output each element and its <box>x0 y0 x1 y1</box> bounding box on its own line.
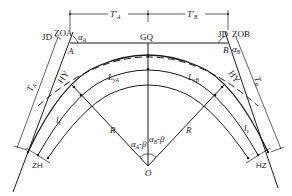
label-t-prime-b: T′B <box>187 9 198 20</box>
label-t-b: TB <box>251 75 265 87</box>
label-l-s-right: ls <box>244 123 249 134</box>
angle-arc-left <box>140 154 148 157</box>
left-tangent-line <box>13 32 73 192</box>
angle-arc-right <box>148 154 156 157</box>
top-dimension-line <box>69 10 229 30</box>
label-alpha-a-minus-beta: αA-β <box>131 139 147 150</box>
label-l-yb: LyB <box>187 72 199 83</box>
label-r-left: R <box>109 125 116 135</box>
label-gq: GQ <box>140 32 153 42</box>
label-zob: ZOB <box>232 29 250 39</box>
left-ta-dimension <box>17 37 58 148</box>
label-t-prime-a: T′A <box>110 9 121 20</box>
label-r-right: R <box>185 125 192 135</box>
label-b: B <box>223 45 229 55</box>
label-a: A <box>67 46 74 56</box>
right-tangent-line <box>225 32 278 188</box>
label-jd-b: JD <box>218 29 229 39</box>
label-o: O <box>145 168 152 178</box>
label-zh: ZH <box>32 161 43 170</box>
label-alpha-a: αA <box>78 32 87 43</box>
label-hy-right: HY <box>226 68 242 85</box>
label-hz: HZ <box>256 161 267 170</box>
label-l-ya: LyA <box>107 72 119 83</box>
label-alpha-b-minus-beta: αB-β <box>149 134 165 145</box>
label-zoa: ZOA <box>54 28 73 38</box>
label-jd-a: JD <box>42 32 53 42</box>
compound-curve-diagram: T′A T′B JD ZOA JD ZOB A B GQ αA <box>0 0 292 196</box>
label-t-a: TA <box>24 81 37 93</box>
label-l-s-left: ls <box>56 115 61 126</box>
